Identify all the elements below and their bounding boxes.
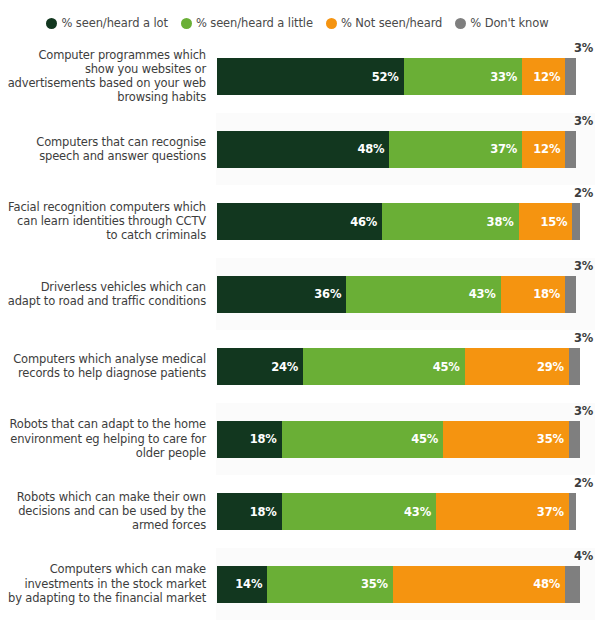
bar-segment-value: 33% [490, 70, 522, 84]
chart-row: Computer programmes whichshow you websit… [0, 40, 595, 113]
bar-segment-value: 43% [404, 505, 436, 519]
category-label: Computers which analyse medicalrecords t… [0, 330, 210, 403]
bar-segment-a-lot[interactable]: 24% [217, 348, 303, 385]
bar-segment-dont-know[interactable]: 4% [565, 566, 579, 603]
chart-legend: % seen/heard a lot% seen/heard a little%… [0, 13, 595, 33]
bar-segment-value: 18% [250, 505, 282, 519]
stacked-bar-chart: % seen/heard a lot% seen/heard a little%… [0, 0, 595, 620]
bar-segment-value: 45% [433, 360, 465, 374]
bar-segment-a-lot[interactable]: 18% [217, 493, 282, 530]
stacked-bar: 52%33%12%3% [217, 58, 576, 95]
bar-segment-not-seen[interactable]: 48% [393, 566, 565, 603]
legend-dot-icon [46, 18, 57, 29]
bar-segment-value: 15% [540, 215, 572, 229]
bar-segment-not-seen[interactable]: 12% [522, 131, 565, 168]
legend-dot-icon [181, 18, 192, 29]
category-label-line: older people [136, 446, 206, 460]
chart-row: Driverless vehicles which canadapt to ro… [0, 258, 595, 331]
bar-segment-not-seen[interactable]: 15% [519, 203, 573, 240]
category-label-line: armed forces [132, 518, 206, 532]
category-label-line: by adapting to the financial market [8, 591, 206, 605]
bar-segment-dont-know[interactable]: 3% [569, 421, 580, 458]
dont-know-value-label: 4% [574, 549, 593, 563]
category-label: Robots which can make their owndecisions… [0, 475, 210, 548]
bar-segment-value: 35% [361, 577, 393, 591]
bar-segment-value: 46% [350, 215, 382, 229]
bar-segment-value: 14% [235, 577, 267, 591]
bar-segment-a-little[interactable]: 43% [346, 276, 500, 313]
dont-know-value-label: 3% [574, 41, 593, 55]
category-label-line: environment eg helping to care for [10, 432, 206, 446]
bar-segment-value: 36% [314, 287, 346, 301]
category-label-line: Robots which can make their own [17, 490, 206, 504]
chart-row: Computers that can recognisespeech and a… [0, 113, 595, 186]
bar-segment-not-seen[interactable]: 37% [436, 493, 569, 530]
bar-segment-dont-know[interactable]: 3% [569, 348, 580, 385]
dont-know-value-label: 3% [574, 331, 593, 345]
stacked-bar: 14%35%48%4% [217, 566, 576, 603]
category-label-line: to catch criminals [106, 228, 206, 242]
bar-rows: Computer programmes whichshow you websit… [0, 40, 595, 620]
bar-segment-not-seen[interactable]: 35% [443, 421, 569, 458]
stacked-bar: 48%37%12%3% [217, 131, 576, 168]
bar-segment-a-lot[interactable]: 14% [217, 566, 267, 603]
bar-segment-a-lot[interactable]: 52% [217, 58, 404, 95]
bar-segment-a-little[interactable]: 35% [267, 566, 393, 603]
stacked-bar: 18%45%35%3% [217, 421, 576, 458]
bar-segment-value: 38% [487, 215, 519, 229]
category-label: Computers which can makeinvestments in t… [0, 548, 210, 620]
bar-segment-value: 48% [533, 577, 565, 591]
stacked-bar: 24%45%29%3% [217, 348, 576, 385]
plot-area: Computer programmes whichshow you websit… [0, 40, 595, 620]
category-label-line: advertisements based on your web [8, 76, 206, 90]
chart-row: Robots which can make their owndecisions… [0, 475, 595, 548]
bar-segment-value: 12% [533, 70, 565, 84]
chart-row: Computers which analyse medicalrecords t… [0, 330, 595, 403]
bar-segment-a-lot[interactable]: 36% [217, 276, 346, 313]
legend-item-label: % seen/heard a lot [61, 16, 167, 30]
dont-know-value-label: 3% [574, 404, 593, 418]
bar-segment-dont-know[interactable]: 2% [569, 493, 576, 530]
legend-item[interactable]: % seen/heard a lot [46, 16, 167, 30]
bar-segment-value: 43% [469, 287, 501, 301]
category-label-line: Computer programmes which [38, 48, 206, 62]
bar-segment-not-seen[interactable]: 18% [501, 276, 566, 313]
bar-segment-a-lot[interactable]: 46% [217, 203, 382, 240]
bar-segment-a-little[interactable]: 45% [303, 348, 465, 385]
bar-segment-a-lot[interactable]: 48% [217, 131, 389, 168]
category-label-line: show you websites or [85, 62, 206, 76]
bar-segment-dont-know[interactable]: 3% [565, 58, 576, 95]
legend-item-label: % Not seen/heard [341, 16, 442, 30]
bar-segment-a-little[interactable]: 45% [282, 421, 444, 458]
category-label: Robots that can adapt to the homeenviron… [0, 403, 210, 476]
category-label-line: can learn identities through CCTV [17, 214, 206, 228]
bar-segment-a-little[interactable]: 37% [389, 131, 522, 168]
legend-item-label: % Don't know [470, 16, 548, 30]
bar-segment-a-little[interactable]: 38% [382, 203, 518, 240]
bar-segment-value: 18% [533, 287, 565, 301]
bar-segment-value: 24% [271, 360, 303, 374]
category-label-line: Robots that can adapt to the home [9, 417, 206, 431]
category-label-line: Computers that can recognise [36, 135, 206, 149]
dont-know-value-label: 3% [574, 114, 593, 128]
chart-row: Computers which can makeinvestments in t… [0, 548, 595, 620]
bar-segment-dont-know[interactable]: 2% [572, 203, 579, 240]
legend-item[interactable]: % Don't know [455, 16, 548, 30]
chart-row: Facial recognition computers whichcan le… [0, 185, 595, 258]
legend-dot-icon [326, 18, 337, 29]
category-label-line: Computers which analyse medical [13, 352, 206, 366]
bar-segment-a-little[interactable]: 43% [282, 493, 436, 530]
dont-know-value-label: 3% [574, 259, 593, 273]
bar-segment-dont-know[interactable]: 3% [565, 276, 576, 313]
legend-item[interactable]: % Not seen/heard [326, 16, 442, 30]
category-label-line: decisions and can be used by the [18, 504, 206, 518]
bar-segment-not-seen[interactable]: 12% [522, 58, 565, 95]
bar-segment-a-little[interactable]: 33% [404, 58, 522, 95]
legend-item[interactable]: % seen/heard a little [181, 16, 313, 30]
bar-segment-dont-know[interactable]: 3% [565, 131, 576, 168]
chart-row: Robots that can adapt to the homeenviron… [0, 403, 595, 476]
bar-segment-value: 48% [357, 142, 389, 156]
bar-segment-not-seen[interactable]: 29% [465, 348, 569, 385]
bar-segment-a-lot[interactable]: 18% [217, 421, 282, 458]
category-label-line: speech and answer questions [39, 149, 206, 163]
